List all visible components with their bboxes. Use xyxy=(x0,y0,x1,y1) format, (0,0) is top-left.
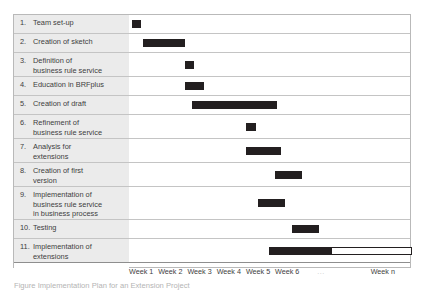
gantt-bar[interactable] xyxy=(185,82,203,90)
gantt-row[interactable]: 4.Education in BRFplus xyxy=(14,77,410,96)
gantt-row-number: 3. xyxy=(20,56,33,66)
gantt-row-track xyxy=(129,115,410,138)
gantt-bar[interactable] xyxy=(269,247,330,255)
axis-label-gutter xyxy=(14,263,129,280)
gantt-row[interactable]: 6.Refinement of business rule service xyxy=(14,115,410,139)
gantt-row-number: 6. xyxy=(20,118,33,128)
gantt-chart-figure: 1.Team set-up2.Creation of sketch3.Defin… xyxy=(13,14,411,268)
gantt-row-label: 2.Creation of sketch xyxy=(14,34,129,52)
gantt-row-label: 10.Testing xyxy=(14,220,129,238)
gantt-bar[interactable] xyxy=(143,39,185,47)
gantt-row[interactable]: 8.Creation of first version xyxy=(14,163,410,187)
axis-tick-label: Week 5 xyxy=(246,267,270,276)
axis-track: Week 1Week 2Week 3Week 4Week 5Week 6...W… xyxy=(129,263,410,280)
gantt-row-label: 9.Implementation of business rule servic… xyxy=(14,187,129,219)
gantt-row-task-name: Analysis for extensions xyxy=(33,142,125,161)
gantt-row-track xyxy=(129,187,410,219)
gantt-row[interactable]: 5.Creation of draft xyxy=(14,96,410,115)
gantt-row-label: 11.Implementation of extensions xyxy=(14,239,129,262)
gantt-row[interactable]: 1.Team set-up xyxy=(14,15,410,34)
gantt-row[interactable]: 10.Testing xyxy=(14,220,410,239)
axis-tick-label: ... xyxy=(317,267,325,276)
gantt-row-number: 10. xyxy=(20,223,33,233)
gantt-row-number: 2. xyxy=(20,37,33,47)
gantt-row[interactable]: 7.Analysis for extensions xyxy=(14,139,410,163)
axis-tick-label: Week 6 xyxy=(275,267,299,276)
gantt-row-task-name: Definition of business rule service xyxy=(33,56,125,75)
gantt-row-number: 11. xyxy=(20,242,33,252)
gantt-row-label: 1.Team set-up xyxy=(14,15,129,33)
gantt-row-task-name: Implementation of business rule service … xyxy=(33,190,125,219)
axis-tick-label: Week 2 xyxy=(158,267,182,276)
gantt-row-track xyxy=(129,53,410,76)
gantt-row-track xyxy=(129,163,410,186)
gantt-row-track xyxy=(129,139,410,162)
gantt-row-task-name: Creation of draft xyxy=(33,99,125,109)
gantt-row[interactable]: 2.Creation of sketch xyxy=(14,34,410,53)
axis-tick-label: Week 1 xyxy=(129,267,153,276)
gantt-row-number: 8. xyxy=(20,166,33,176)
gantt-row-number: 9. xyxy=(20,190,33,200)
gantt-bar[interactable] xyxy=(258,199,286,207)
axis-tick-label: Week n xyxy=(371,267,395,276)
gantt-row-task-name: Testing xyxy=(33,223,125,233)
gantt-bar[interactable] xyxy=(192,101,277,109)
gantt-row-task-name: Refinement of business rule service xyxy=(33,118,125,137)
gantt-row-task-name: Team set-up xyxy=(33,18,125,28)
gantt-row-number: 1. xyxy=(20,18,33,28)
gantt-bar[interactable] xyxy=(275,171,302,179)
gantt-row-number: 5. xyxy=(20,99,33,109)
axis-tick-label: Week 3 xyxy=(187,267,211,276)
gantt-bar[interactable] xyxy=(185,61,194,69)
gantt-row-track xyxy=(129,15,410,33)
gantt-row-track xyxy=(129,220,410,238)
gantt-row-task-name: Creation of sketch xyxy=(33,37,125,47)
gantt-row-label: 5.Creation of draft xyxy=(14,96,129,114)
gantt-row-number: 7. xyxy=(20,142,33,152)
gantt-bar[interactable] xyxy=(132,20,141,28)
gantt-bar[interactable] xyxy=(246,147,281,155)
gantt-bar[interactable] xyxy=(292,225,319,233)
gantt-row-label: 4.Education in BRFplus xyxy=(14,77,129,95)
figure-caption: Figure Implementation Plan for an Extens… xyxy=(14,281,410,291)
gantt-row-task-name: Implementation of extensions xyxy=(33,242,125,261)
gantt-row-track xyxy=(129,34,410,52)
gantt-chart: 1.Team set-up2.Creation of sketch3.Defin… xyxy=(14,15,410,267)
gantt-row-number: 4. xyxy=(20,80,33,90)
gantt-bar-open[interactable] xyxy=(331,247,413,255)
gantt-row-label: 8.Creation of first version xyxy=(14,163,129,186)
gantt-axis: Week 1Week 2Week 3Week 4Week 5Week 6...W… xyxy=(14,263,410,280)
gantt-row-task-name: Creation of first version xyxy=(33,166,125,185)
gantt-row-track xyxy=(129,77,410,95)
gantt-row[interactable]: 11.Implementation of extensions xyxy=(14,239,410,263)
gantt-row-label: 7.Analysis for extensions xyxy=(14,139,129,162)
gantt-row[interactable]: 3.Definition of business rule service xyxy=(14,53,410,77)
gantt-rows: 1.Team set-up2.Creation of sketch3.Defin… xyxy=(14,15,410,263)
gantt-row[interactable]: 9.Implementation of business rule servic… xyxy=(14,187,410,220)
gantt-row-label: 3.Definition of business rule service xyxy=(14,53,129,76)
gantt-row-label: 6.Refinement of business rule service xyxy=(14,115,129,138)
gantt-row-task-name: Education in BRFplus xyxy=(33,80,125,90)
gantt-row-track xyxy=(129,96,410,114)
gantt-bar[interactable] xyxy=(246,123,256,131)
axis-tick-label: Week 4 xyxy=(217,267,241,276)
gantt-row-track xyxy=(129,239,410,262)
